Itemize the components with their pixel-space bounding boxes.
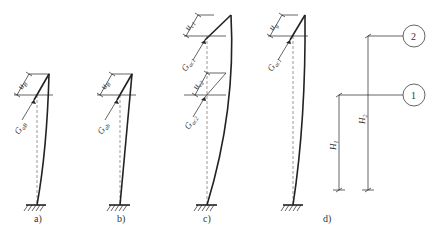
panel-caption: d) xyxy=(323,213,331,225)
panel-caption: b) xyxy=(117,213,125,225)
force-vector xyxy=(205,73,226,97)
arrow-head-icon xyxy=(286,40,291,44)
h1-label: H1 xyxy=(328,141,339,152)
level-1-number: 1 xyxy=(411,90,416,101)
panel-c: uc1 Gac1 uc2 Gac2 c) xyxy=(179,13,232,225)
arrow-head-icon xyxy=(201,97,206,101)
hatch-icon xyxy=(281,205,301,211)
panel-d: ug Gac1 d) H1 H2 2 1 xyxy=(265,13,425,225)
deflected-column xyxy=(207,15,232,205)
force-label: Gab xyxy=(95,120,111,136)
arrow-head-icon xyxy=(201,40,206,44)
panel-caption: c) xyxy=(203,213,211,225)
hatch-icon xyxy=(194,205,214,211)
panel-caption: a) xyxy=(34,213,42,225)
deflected-column xyxy=(293,15,305,205)
force-label-2: Gac2 xyxy=(182,113,199,132)
panel-a: uB GaB a) xyxy=(12,72,53,225)
level-2-number: 2 xyxy=(411,31,416,42)
displacement-label-2: uc2 xyxy=(190,77,205,91)
h2-label: H2 xyxy=(357,115,368,126)
force-vector xyxy=(34,74,49,100)
hatch-icon xyxy=(107,205,127,211)
deflected-column xyxy=(37,74,49,205)
hatch-icon xyxy=(24,205,44,211)
panel-b: uB Gab b) xyxy=(95,72,136,225)
displacement-label: uB xyxy=(15,79,29,92)
force-label: GaB xyxy=(12,119,28,136)
column-deflection-diagram: uB GaB a) uB Gab b) xyxy=(0,0,439,235)
force-label: Gac1 xyxy=(265,55,282,74)
deflected-column xyxy=(120,74,132,205)
displacement-label: uB xyxy=(98,79,112,92)
